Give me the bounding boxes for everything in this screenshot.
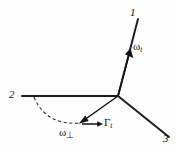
axis-1-label: 1 bbox=[130, 7, 136, 18]
gamma-t-vector bbox=[82, 121, 103, 126]
gamma-t-subscript: t bbox=[110, 121, 112, 130]
omega-perpendicular-shaft bbox=[84, 96, 119, 121]
omega-perpendicular-arrowhead bbox=[79, 115, 89, 123]
omega-parallel-subscript: t bbox=[140, 45, 142, 54]
axis-3-label: 3 bbox=[163, 133, 169, 144]
gamma-t-label: Γt bbox=[104, 117, 112, 129]
omega-perpendicular-label: ω⊥ bbox=[59, 127, 74, 139]
rotation-arc bbox=[34, 97, 81, 123]
axis-3-line bbox=[118, 96, 169, 137]
gamma-t-arrowhead bbox=[97, 121, 103, 126]
omega-parallel-vector bbox=[118, 48, 133, 96]
omega-perpendicular-subscript: ⊥ bbox=[66, 130, 74, 140]
axis-2-label: 2 bbox=[9, 89, 15, 100]
omega-parallel-shaft bbox=[118, 54, 129, 97]
diagram-canvas bbox=[0, 0, 176, 152]
vector-diagram-figure: 1 2 3 ωt ω⊥ Γt bbox=[0, 0, 176, 152]
omega-parallel-label: ωt bbox=[133, 41, 142, 53]
